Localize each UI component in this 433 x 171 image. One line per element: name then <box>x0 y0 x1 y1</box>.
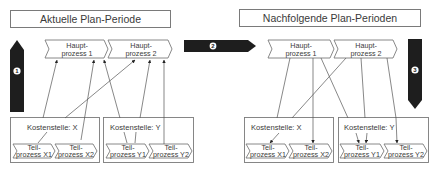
right-sub-process-y1: Teil- prozess Y1 <box>340 143 384 159</box>
left-main-process-1: Haupt- prozess 1 <box>45 40 108 58</box>
svg-text:Kostenstelle: X: Kostenstelle: X <box>27 123 78 132</box>
right-sub-process-x1: Teil- prozess X1 <box>246 143 289 159</box>
left-main-process-2: Haupt- prozess 2 <box>108 40 172 58</box>
right-main-process-2: Haupt- prozess 2 <box>334 40 397 58</box>
left-sub-process-x1: Teil- prozess X1 <box>13 143 55 159</box>
right-title-box: Nachfolgende Plan-Perioden <box>240 10 421 27</box>
svg-text:prozess X1: prozess X1 <box>16 150 52 159</box>
step-arrow-2-right-icon: 2 <box>184 40 256 52</box>
left-title: Aktuelle Plan-Periode <box>40 13 141 25</box>
left-sub-process-y2: Teil- prozess Y2 <box>149 143 192 159</box>
svg-text:prozess X2: prozess X2 <box>58 150 94 159</box>
svg-text:Kostenstelle: X: Kostenstelle: X <box>251 123 302 132</box>
svg-text:prozess Y2: prozess Y2 <box>153 150 189 159</box>
svg-text:prozess X2: prozess X2 <box>293 150 329 159</box>
left-sub-process-x2: Teil- prozess X2 <box>55 143 97 159</box>
right-title: Nachfolgende Plan-Perioden <box>263 12 397 24</box>
left-title-box: Aktuelle Plan-Periode <box>11 11 171 28</box>
svg-text:Kostenstelle: Y: Kostenstelle: Y <box>110 123 161 132</box>
svg-text:prozess Y1: prozess Y1 <box>110 150 146 159</box>
svg-text:prozess 1: prozess 1 <box>285 49 316 58</box>
svg-text:prozess 1: prozess 1 <box>61 49 92 58</box>
left-sub-process-y1: Teil- prozess Y1 <box>106 143 149 159</box>
svg-text:prozess Y2: prozess Y2 <box>388 150 424 159</box>
diagram: Aktuelle Plan-Periode Nachfolgende Plan-… <box>0 0 433 171</box>
step-arrow-1-up-icon: 1 <box>10 40 24 112</box>
step-arrow-3-down-icon: 3 <box>408 39 422 109</box>
svg-text:prozess 2: prozess 2 <box>350 49 381 58</box>
svg-text:prozess 2: prozess 2 <box>125 49 156 58</box>
svg-text:prozess Y1: prozess Y1 <box>344 150 380 159</box>
svg-text:Kostenstelle: Y: Kostenstelle: Y <box>344 123 395 132</box>
svg-text:prozess X1: prozess X1 <box>250 150 286 159</box>
right-sub-process-y2: Teil- prozess Y2 <box>384 143 427 159</box>
right-sub-process-x2: Teil- prozess X2 <box>289 143 332 159</box>
right-main-process-1: Haupt- prozess 1 <box>268 40 334 58</box>
